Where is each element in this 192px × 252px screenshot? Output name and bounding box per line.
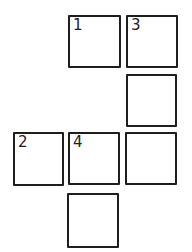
box-4: 4 xyxy=(68,132,120,185)
box-number-label: 2 xyxy=(18,134,28,151)
box-2: 2 xyxy=(13,132,64,186)
box-number-label: 4 xyxy=(73,134,83,151)
box-empty-row3-col3 xyxy=(125,132,177,185)
box-empty-row4-col2 xyxy=(67,193,119,248)
box-empty-row2-col3 xyxy=(126,74,177,127)
box-number-label: 3 xyxy=(131,17,141,34)
box-number-label: 1 xyxy=(73,17,83,34)
box-3: 3 xyxy=(126,15,178,68)
box-1: 1 xyxy=(68,15,121,68)
